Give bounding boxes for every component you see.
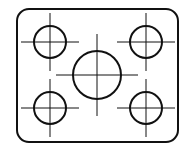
plate-drawing: [0, 0, 193, 158]
hole-center: [56, 34, 138, 116]
holes-group: [21, 13, 175, 137]
hole-bottom-left: [21, 79, 79, 137]
hole-top-left: [21, 13, 79, 71]
hole-bottom-right: [117, 79, 175, 137]
hole-top-right: [117, 13, 175, 71]
